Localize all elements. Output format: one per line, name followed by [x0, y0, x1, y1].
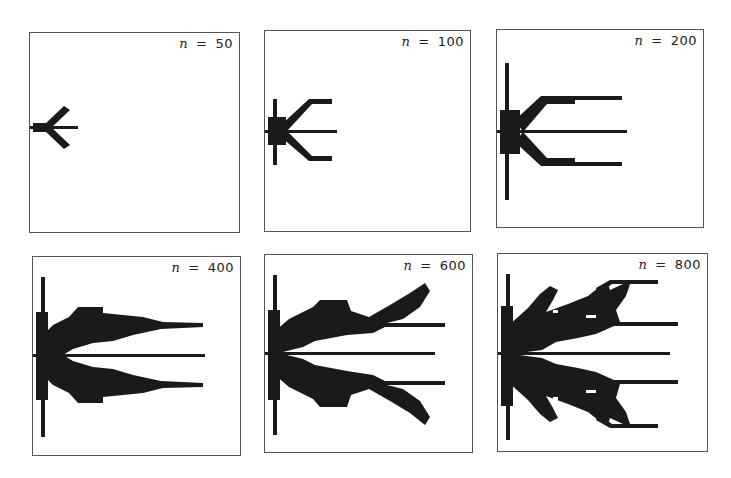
pattern-branch [265, 352, 435, 355]
variable-n: n [179, 36, 188, 51]
panel-label: n=600 [403, 258, 466, 273]
step-count: 600 [440, 258, 466, 273]
pattern-branch [268, 117, 286, 145]
step-count: 100 [438, 34, 464, 49]
panel-label: n=100 [401, 34, 464, 49]
panel-label: n=50 [179, 36, 233, 51]
pattern-branch [268, 310, 280, 400]
equals-sign: = [418, 34, 429, 49]
equals-sign: = [655, 257, 666, 272]
pattern-branch [281, 131, 332, 161]
panel-n-200: n=200 [496, 29, 704, 228]
growth-pattern [265, 255, 474, 454]
pattern-branch [275, 283, 445, 353]
pattern-gap [586, 390, 596, 393]
panel-n-100: n=100 [264, 30, 471, 232]
equals-sign: = [651, 33, 662, 48]
step-count: 800 [675, 257, 701, 272]
variable-n: n [403, 258, 412, 273]
pattern-branch [44, 126, 70, 149]
panel-label: n=800 [638, 257, 701, 272]
pattern-branch [515, 132, 622, 166]
equals-sign: = [420, 258, 431, 273]
panel-n-600: n=600 [264, 254, 473, 453]
step-count: 50 [215, 36, 233, 51]
growth-pattern [30, 33, 241, 234]
step-count: 200 [671, 33, 697, 48]
variable-n: n [401, 34, 410, 49]
pattern-branch [498, 352, 670, 355]
pattern-branch [515, 96, 622, 132]
pattern-branch [43, 355, 203, 403]
step-count: 400 [208, 260, 234, 275]
pattern-branch [501, 306, 513, 406]
pattern-branch [275, 353, 445, 425]
panel-label: n=200 [634, 33, 697, 48]
equals-sign: = [188, 260, 199, 275]
pattern-branch [44, 106, 70, 129]
growth-pattern [498, 254, 709, 453]
growth-pattern [497, 30, 705, 229]
pattern-branch [281, 99, 332, 131]
pattern-gap [586, 315, 596, 318]
variable-n: n [634, 33, 643, 48]
panel-n-400: n=400 [32, 256, 241, 456]
variable-n: n [171, 260, 180, 275]
panel-label: n=400 [171, 260, 234, 275]
equals-sign: = [196, 36, 207, 51]
variable-n: n [638, 257, 647, 272]
growth-pattern [33, 257, 242, 457]
pattern-branch [500, 110, 520, 154]
growth-pattern [265, 31, 472, 233]
pattern-branch [43, 307, 203, 355]
panel-n-800: n=800 [497, 253, 708, 452]
panel-n-50: n=50 [29, 32, 240, 233]
pattern-gap [553, 397, 558, 400]
pattern-gap [553, 310, 558, 313]
